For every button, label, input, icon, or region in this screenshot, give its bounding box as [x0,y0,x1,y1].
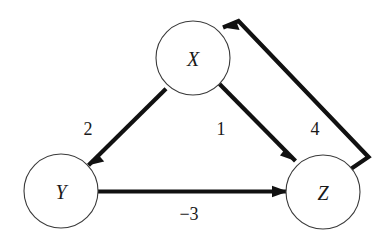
edge-weight-x-to-z: 1 [217,119,226,139]
node-z: Z [286,155,360,229]
graph-canvas: 2 1 −3 4 X [0,0,382,237]
node-y-label: Y [55,181,68,203]
edge-y-to-z: −3 [98,186,288,224]
node-y: Y [24,154,98,228]
edge-weight-z-to-x: 4 [311,119,320,139]
edge-x-to-z-line [220,84,296,161]
edge-weight-x-to-y: 2 [84,119,93,139]
edge-x-to-y-line [89,89,167,166]
node-x-label: X [186,48,200,70]
edge-weight-y-to-z: −3 [179,204,198,224]
edge-x-to-z: 1 [217,84,296,161]
edge-x-to-y: 2 [84,89,167,166]
node-x: X [156,21,230,95]
graph-figure: 2 1 −3 4 X [0,0,382,237]
node-z-label: Z [317,182,329,204]
edge-z-to-x-line [223,21,369,170]
edge-z-to-x: 4 [223,21,369,170]
